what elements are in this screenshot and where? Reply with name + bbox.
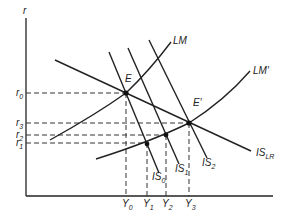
r0-label: r0	[16, 88, 23, 100]
y1-label: Y1	[143, 199, 154, 211]
y0-label: Y0	[122, 199, 133, 211]
e-prime-label: E′	[193, 98, 202, 108]
point-e-prime	[186, 120, 191, 125]
lm-label: LM	[173, 36, 187, 46]
is1-label: IS1	[175, 164, 188, 176]
is2-label: IS2	[202, 158, 215, 170]
point-is0-lm-prime	[145, 142, 150, 147]
y3-label: Y3	[185, 199, 196, 211]
e-label: E	[125, 74, 132, 84]
point-is1-lm-prime	[164, 133, 169, 138]
r1-label: r1	[16, 138, 23, 150]
r-axis-label: r	[23, 6, 26, 16]
is0-label: IS0	[152, 172, 165, 184]
y2-label: Y2	[162, 199, 173, 211]
is-lr-label: ISLR	[256, 148, 274, 160]
is0-curve	[109, 52, 159, 173]
is1-curve	[128, 48, 179, 164]
point-e	[123, 90, 128, 95]
islm-diagram	[0, 0, 288, 222]
lm-prime-label: LM′	[253, 66, 269, 76]
